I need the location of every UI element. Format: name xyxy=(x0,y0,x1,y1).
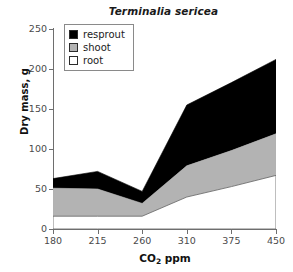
x-tick-mark xyxy=(231,230,232,234)
y-tick-label: 0 xyxy=(19,224,47,234)
legend-item-root: root xyxy=(69,54,125,67)
x-tick-label: 215 xyxy=(81,236,115,246)
x-tick-mark xyxy=(53,230,54,234)
x-tick-label: 450 xyxy=(259,236,293,246)
legend-label: root xyxy=(83,56,103,66)
legend-item-shoot: shoot xyxy=(69,41,125,54)
legend-label: resprout xyxy=(83,30,125,40)
legend-swatch-icon xyxy=(69,30,78,39)
x-tick-mark xyxy=(276,230,277,234)
x-tick-mark xyxy=(142,230,143,234)
x-tick-label: 310 xyxy=(170,236,204,246)
legend-label: shoot xyxy=(83,43,111,53)
x-tick-label: 375 xyxy=(214,236,248,246)
chart-figure: Terminalia sericea 050100150200250 18021… xyxy=(0,0,293,272)
x-axis-title-base: CO xyxy=(139,252,156,264)
x-axis-title: CO2 ppm xyxy=(53,252,277,266)
chart-legend: resproutshootroot xyxy=(64,24,134,71)
x-axis-title-rest: ppm xyxy=(161,252,191,264)
x-tick-label: 180 xyxy=(36,236,70,246)
legend-swatch-icon xyxy=(69,56,78,65)
y-tick-label: 250 xyxy=(19,24,47,34)
x-tick-label: 260 xyxy=(125,236,159,246)
legend-item-resprout: resprout xyxy=(69,28,125,41)
y-axis-title: Dry mass, g xyxy=(19,55,30,149)
x-axis-line xyxy=(53,229,277,230)
legend-swatch-icon xyxy=(69,43,78,52)
y-tick-label: 50 xyxy=(19,184,47,194)
x-tick-mark xyxy=(98,230,99,234)
x-tick-mark xyxy=(187,230,188,234)
